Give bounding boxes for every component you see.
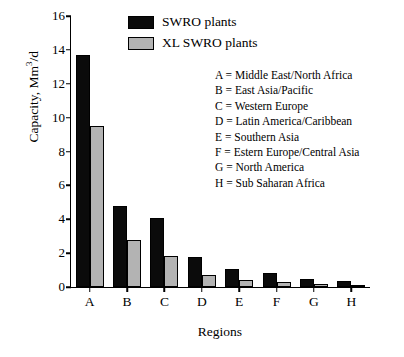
y-tick-label: 2 [43, 245, 65, 261]
bar-group [150, 218, 178, 287]
y-tick-label: 8 [43, 144, 65, 160]
y-tick-mark [66, 117, 71, 119]
annotation-line: H = Sub Saharan Africa [215, 176, 359, 191]
bar-group [113, 206, 141, 287]
bar [337, 281, 351, 287]
legend-swatch [128, 16, 154, 29]
y-tick-mark [66, 185, 71, 187]
bar-group [188, 257, 216, 287]
legend-label: XL SWRO plants [162, 35, 258, 51]
y-tick-mark [66, 15, 71, 17]
y-tick-label: 14 [43, 42, 65, 58]
bar [164, 256, 178, 287]
bar-group [337, 281, 365, 287]
annotation-line: D = Latin America/Caribbean [215, 114, 359, 129]
x-axis-title: Regions [70, 324, 370, 340]
bar-group [76, 55, 104, 287]
region-key-annotations: A = Middle East/North AfricaB = East Asi… [215, 68, 359, 191]
y-tick-label: 16 [43, 8, 65, 24]
annotation-line: C = Western Europe [215, 99, 359, 114]
legend-item: XL SWRO plants [128, 35, 258, 51]
legend-label: SWRO plants [162, 14, 237, 30]
legend-swatch [128, 37, 154, 50]
x-tick-label: C [160, 294, 169, 310]
bar [76, 55, 90, 287]
bar-group [225, 269, 253, 287]
x-tick-mark [276, 287, 278, 292]
bar [202, 275, 216, 287]
x-tick-label: G [309, 294, 319, 310]
x-tick-label: H [346, 294, 356, 310]
bar [225, 269, 239, 287]
bar [90, 126, 104, 287]
y-tick-mark [66, 49, 71, 51]
legend-item: SWRO plants [128, 14, 258, 30]
annotation-line: B = East Asia/Pacific [215, 83, 359, 98]
bar-group [263, 273, 291, 287]
annotation-line: E = Southern Asia [215, 130, 359, 145]
x-tick-mark [164, 287, 166, 292]
bar [188, 257, 202, 287]
y-tick-mark [66, 83, 71, 85]
y-tick-mark [66, 151, 71, 153]
x-tick-mark [126, 287, 128, 292]
y-tick-mark [66, 286, 71, 288]
bar [300, 279, 314, 287]
y-tick-label: 0 [43, 279, 65, 295]
y-axis-title: Capacity, Mm3/d [24, 12, 42, 182]
y-axis-title-tail: /d [26, 51, 41, 62]
y-tick-mark [66, 219, 71, 221]
annotation-line: G = North America [215, 160, 359, 175]
x-tick-label: B [123, 294, 132, 310]
x-tick-mark [238, 287, 240, 292]
x-tick-mark [201, 287, 203, 292]
x-tick-label: D [197, 294, 207, 310]
y-axis-title-exponent: 3 [24, 62, 34, 67]
y-tick-label: 4 [43, 211, 65, 227]
bar [314, 284, 328, 287]
chart-legend: SWRO plantsXL SWRO plants [128, 14, 258, 56]
y-tick-label: 6 [43, 177, 65, 193]
bar [239, 280, 253, 287]
bar-group [300, 279, 328, 287]
bar [127, 240, 141, 287]
x-tick-mark [89, 287, 91, 292]
bar [351, 285, 365, 287]
x-tick-mark [313, 287, 315, 292]
y-tick-label: 10 [43, 110, 65, 126]
x-tick-label: A [85, 294, 95, 310]
bar [263, 273, 277, 287]
annotation-line: A = Middle East/North Africa [215, 68, 359, 83]
annotation-line: F = Estern Europe/Central Asia [215, 145, 359, 160]
y-axis-title-base: Capacity, Mm [26, 66, 41, 142]
y-tick-label: 12 [43, 76, 65, 92]
y-tick-mark [66, 252, 71, 254]
x-tick-label: E [235, 294, 243, 310]
bar [277, 282, 291, 287]
x-tick-mark [351, 287, 353, 292]
bar [113, 206, 127, 287]
x-tick-label: F [273, 294, 281, 310]
bar-chart: Capacity, Mm3/d 0246810121416ABCDEFGH Re… [0, 0, 404, 357]
bar [150, 218, 164, 287]
